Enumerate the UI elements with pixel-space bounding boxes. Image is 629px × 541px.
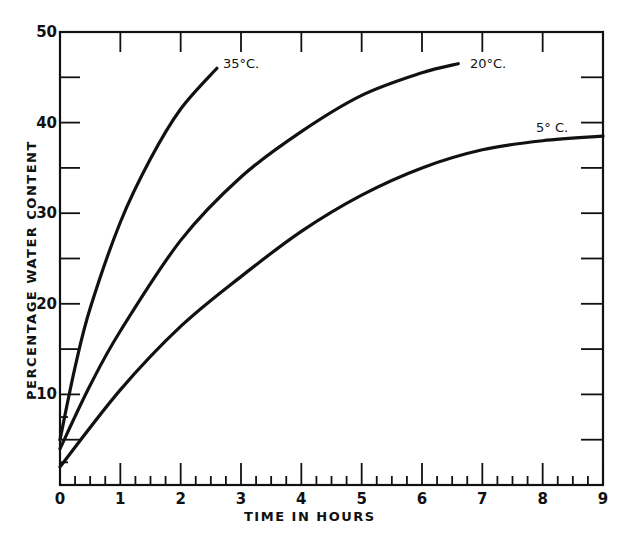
curve-label-35c: 35°C. bbox=[223, 56, 259, 71]
curve-5c bbox=[60, 136, 603, 467]
y-tick-label: 10 bbox=[36, 385, 57, 403]
x-tick-label: 2 bbox=[175, 490, 185, 508]
x-axis-title: TIME IN HOURS bbox=[244, 509, 376, 524]
x-tick-label: 1 bbox=[115, 490, 125, 508]
curve-label-20c: 20°C. bbox=[470, 56, 506, 71]
water-content-chart: 01234567891020304050 35°C. 20°C. 5° C. T… bbox=[0, 0, 629, 541]
curve-35c bbox=[60, 68, 217, 439]
x-tick-label: 3 bbox=[236, 490, 246, 508]
x-tick-label: 5 bbox=[356, 490, 366, 508]
x-tick-label: 9 bbox=[598, 490, 608, 508]
y-tick-label: 20 bbox=[36, 295, 57, 313]
curve-label-5c: 5° C. bbox=[536, 120, 568, 135]
y-tick-label: 50 bbox=[36, 23, 57, 41]
x-tick-label: 8 bbox=[537, 490, 547, 508]
axes-frame bbox=[60, 32, 603, 485]
x-tick-label: 7 bbox=[477, 490, 487, 508]
x-tick-label: 6 bbox=[417, 490, 427, 508]
tick-marks bbox=[60, 32, 603, 485]
tick-labels: 01234567891020304050 bbox=[36, 23, 608, 508]
x-tick-label: 0 bbox=[55, 490, 65, 508]
y-axis-title: PERCENTAGE WATER CONTENT bbox=[24, 140, 39, 400]
x-tick-label: 4 bbox=[296, 490, 306, 508]
y-tick-label: 30 bbox=[36, 204, 57, 222]
y-tick-label: 40 bbox=[36, 114, 57, 132]
curves bbox=[60, 64, 603, 467]
plot-border bbox=[60, 32, 603, 485]
